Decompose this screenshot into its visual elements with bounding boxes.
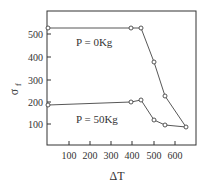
xtick-200: 200 xyxy=(83,150,98,161)
x-axis-title: ΔT xyxy=(109,169,125,183)
y-axis-title: σ f xyxy=(7,83,23,95)
annotation-p0: P = 0Kg xyxy=(76,36,113,48)
y-axis-ticks xyxy=(47,34,51,124)
ytick-500: 500 xyxy=(28,29,43,40)
x-axis-tick-labels: 100 200 300 400 500 600 xyxy=(62,150,183,161)
y-axis-title-sub: f xyxy=(14,83,23,86)
plot-frame xyxy=(47,11,196,145)
ytick-100: 100 xyxy=(28,119,43,130)
y-axis-tick-labels: 500 400 300 200 100 xyxy=(28,29,43,130)
ytick-300: 300 xyxy=(28,75,43,86)
ytick-400: 400 xyxy=(28,52,43,63)
x-axis-ticks xyxy=(69,141,175,145)
xtick-600: 600 xyxy=(168,150,183,161)
y-axis-title-main: σ xyxy=(7,88,21,95)
chart: 500 400 300 200 100 100 200 300 400 500 … xyxy=(0,0,204,189)
xtick-300: 300 xyxy=(104,150,119,161)
xtick-500: 500 xyxy=(147,150,162,161)
annotation-p50: P = 50Kg xyxy=(76,113,118,125)
xtick-400: 400 xyxy=(125,150,140,161)
ytick-200: 200 xyxy=(28,97,43,108)
xtick-100: 100 xyxy=(62,150,77,161)
